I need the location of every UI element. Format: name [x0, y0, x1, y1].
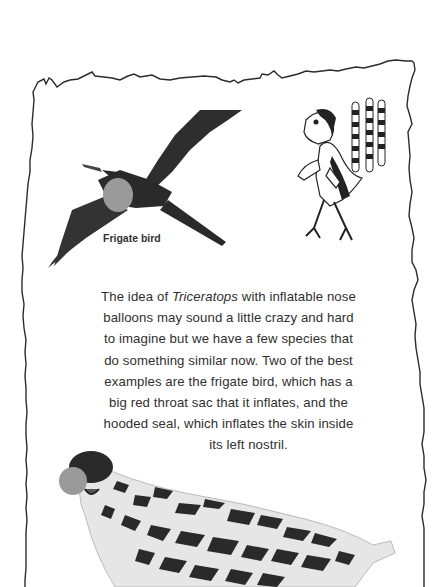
text-line: The idea of Triceratops with inflatable … — [66, 286, 391, 307]
text-line: hooded seal, which inflates the skin ins… — [66, 413, 391, 434]
text-line: do something similar now. Two of the bes… — [66, 350, 391, 371]
book-page: Frigate bird The idea of Triceratops wit… — [0, 0, 444, 587]
text-line: big red throat sac that it inflates, and… — [66, 392, 391, 413]
triceratops-term: Triceratops — [172, 289, 238, 304]
feathered-dinosaur-illustration — [290, 96, 410, 246]
body-paragraph: The idea of Triceratops with inflatable … — [66, 286, 391, 456]
frigate-bird-illustration — [40, 110, 260, 270]
text-line: examples are the frigate bird, which has… — [66, 371, 391, 392]
text-line: balloons may sound a little crazy and ha… — [66, 307, 391, 328]
hooded-seal-illustration — [55, 445, 405, 587]
frigate-bird-caption: Frigate bird — [103, 232, 161, 244]
text-line: to imagine but we have a few species tha… — [66, 328, 391, 349]
